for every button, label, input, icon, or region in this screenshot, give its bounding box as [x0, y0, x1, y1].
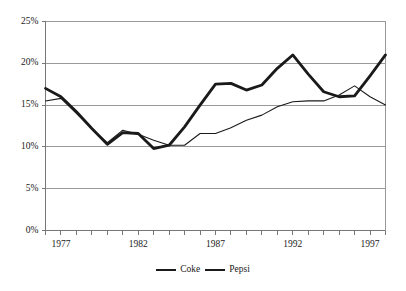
x-axis-tick-label: 1977: [41, 240, 81, 250]
y-axis-tick-label: 0%: [26, 226, 39, 236]
y-axis-tick-label: 15%: [21, 100, 38, 110]
y-axis-tick-label: 5%: [26, 184, 39, 194]
x-axis-tick-label: 1987: [196, 240, 236, 250]
legend-entry-coke: Coke: [156, 265, 200, 275]
series-line-coke: [46, 55, 386, 149]
x-axis-tick-label: 1997: [350, 240, 390, 250]
x-axis-tick-label: 1992: [273, 240, 313, 250]
legend-line-swatch-pepsi: [205, 269, 225, 270]
legend-label-coke: Coke: [180, 265, 200, 275]
y-axis-tick-label: 10%: [21, 142, 38, 152]
x-axis-tick-label: 1982: [118, 240, 158, 250]
legend-line-swatch-coke: [156, 269, 176, 272]
y-axis-tick-label: 25%: [21, 17, 38, 27]
y-axis-tick-label: 20%: [21, 58, 38, 68]
chart-container: 0%5%10%15%20%25% 19771982198719921997 Co…: [0, 0, 406, 291]
legend-label-pepsi: Pepsi: [229, 265, 250, 275]
chart-legend: Coke Pepsi: [0, 262, 406, 278]
legend-entry-pepsi: Pepsi: [205, 265, 250, 275]
